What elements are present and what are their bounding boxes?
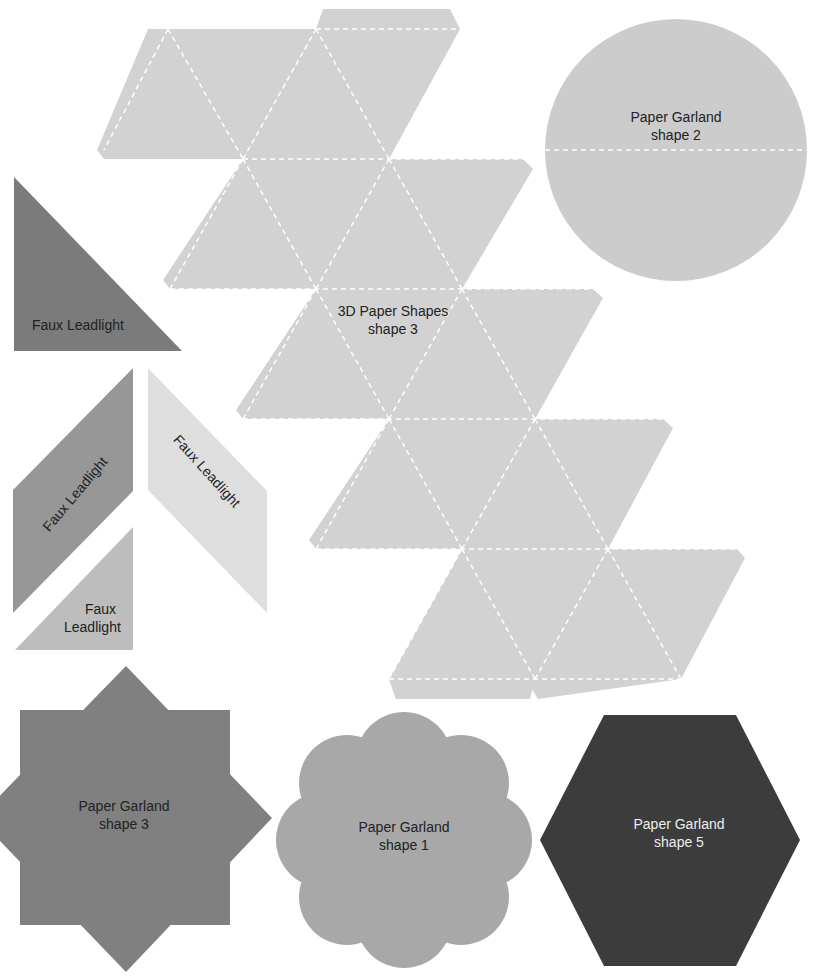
net-label: 3D Paper Shapes shape 3 [333,302,453,338]
flower-label: Paper Garland shape 1 [344,818,464,854]
star-label: Paper Garland shape 3 [64,797,184,833]
hexagon-label: Paper Garland shape 5 [619,815,739,851]
triangle-small-label: Faux Leadlight [64,600,116,636]
circle-label: Paper Garland shape 2 [616,108,736,144]
triangle-dark-label: Faux Leadlight [32,316,132,334]
